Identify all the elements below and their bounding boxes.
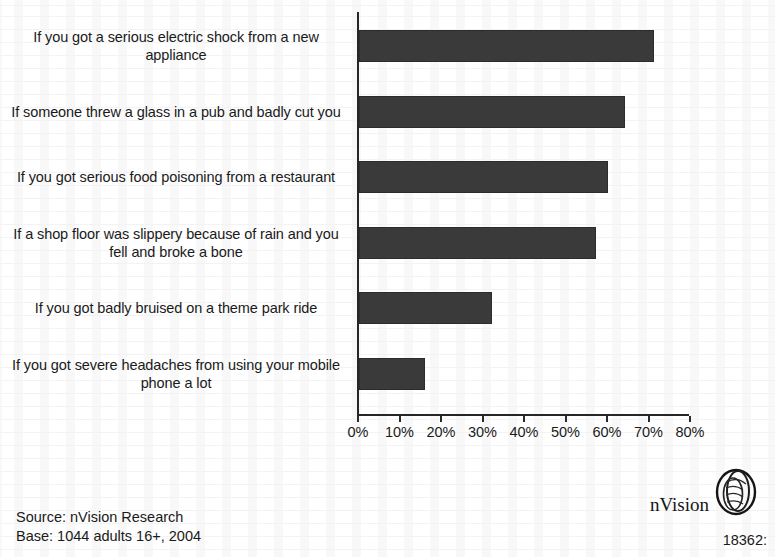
x-axis-tick [357, 416, 359, 422]
source-line: Source: nVision Research [16, 508, 201, 527]
document-number: 18362: [723, 532, 767, 548]
x-axis-tick-label: 30% [461, 424, 505, 440]
x-axis-tick [523, 416, 525, 422]
x-axis-tick-label: 60% [585, 424, 629, 440]
x-axis-tick [399, 416, 401, 422]
plot-area: 0%10%20%30%40%50%60%70%80% [357, 12, 697, 416]
nvision-eye-icon [713, 468, 759, 518]
bar [359, 96, 625, 128]
x-axis-tick [565, 416, 567, 422]
x-axis-tick [440, 416, 442, 422]
category-label: If someone threw a glass in a pub and ba… [8, 103, 344, 121]
category-label: If you got serious food poisoning from a… [8, 168, 344, 186]
bar [359, 292, 492, 324]
x-axis-tick [482, 416, 484, 422]
base-line: Base: 1044 adults 16+, 2004 [16, 527, 201, 546]
category-label: If you got a serious electric shock from… [8, 28, 344, 64]
category-label: If you got badly bruised on a theme park… [8, 299, 344, 317]
x-axis-tick [606, 416, 608, 422]
x-axis-tick-label: 70% [627, 424, 671, 440]
x-axis-tick [648, 416, 650, 422]
bar [359, 30, 654, 62]
bar-chart: If you got a serious electric shock from… [0, 0, 775, 440]
x-axis-tick-label: 40% [502, 424, 546, 440]
nvision-logo: nVision [650, 468, 760, 524]
bar [359, 358, 425, 390]
x-axis-tick-label: 50% [544, 424, 588, 440]
category-label: If a shop floor was slippery because of … [8, 225, 344, 261]
bar [359, 161, 608, 193]
y-axis-line [357, 12, 359, 416]
footer-notes: Source: nVision Research Base: 1044 adul… [16, 508, 201, 546]
x-axis-tick [689, 416, 691, 422]
logo-wordmark: nVision [650, 494, 709, 516]
x-axis-tick-label: 20% [419, 424, 463, 440]
x-axis-tick-label: 80% [668, 424, 712, 440]
x-axis-tick-label: 10% [378, 424, 422, 440]
bar [359, 227, 596, 259]
category-label: If you got severe headaches from using y… [8, 356, 344, 392]
x-axis-tick-label: 0% [336, 424, 380, 440]
